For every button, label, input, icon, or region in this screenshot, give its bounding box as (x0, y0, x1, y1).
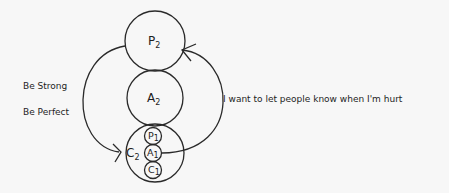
p1-label: P1 (148, 130, 159, 143)
ego-state-diagram: P2 A2 C2 P1 A1 C1 Be Strong Be Perfect I… (0, 0, 449, 193)
a1-label: A1 (147, 147, 159, 160)
driver-arrow-left (83, 46, 125, 152)
arrowhead-left-icon (113, 144, 121, 162)
allower-arrow-right (162, 50, 223, 153)
a2-label: A2 (147, 91, 160, 107)
allower-label: I want to let people know when I'm hurt (223, 94, 403, 104)
c2-label: C2 (126, 146, 139, 162)
driver-label-be-perfect: Be Perfect (23, 107, 70, 117)
p2-label: P2 (148, 34, 160, 50)
c1-label: C1 (148, 164, 160, 177)
driver-label-be-strong: Be Strong (23, 81, 67, 91)
